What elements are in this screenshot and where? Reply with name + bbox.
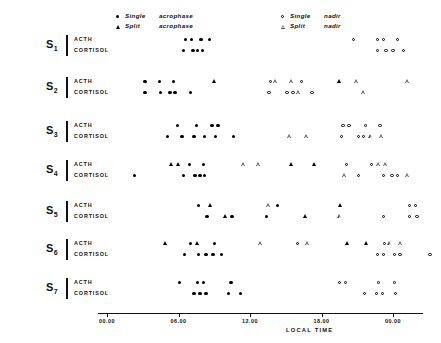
data-point-filled-circle: [158, 80, 161, 83]
data-point-filled-circle: [189, 91, 192, 94]
data-point-filled-triangle: [289, 162, 293, 166]
data-point-filled-circle: [230, 215, 233, 218]
data-point-open-circle: [338, 281, 341, 284]
data-point-filled-triangle: [337, 79, 341, 83]
data-point-open-circle: [377, 281, 380, 284]
data-point-filled-circle: [172, 80, 175, 83]
axis-title: LOCAL TIME: [286, 327, 333, 333]
data-point-filled-circle: [213, 242, 216, 245]
data-point-open-triangle: [355, 79, 359, 83]
data-row-s2-acth: [0, 76, 441, 87]
data-point-open-circle: [383, 242, 386, 245]
data-point-open-circle: [376, 253, 379, 256]
data-point-filled-circle: [191, 49, 194, 52]
data-point-open-triangle: [274, 79, 278, 83]
data-point-open-circle: [340, 135, 343, 138]
data-point-open-triangle: [406, 79, 410, 83]
data-point-open-triangle: [258, 241, 262, 245]
filled-circle-icon: [116, 12, 125, 20]
data-point-filled-circle: [178, 281, 181, 284]
data-point-open-circle: [393, 281, 396, 284]
data-point-filled-circle: [216, 124, 219, 127]
axis-tick: [107, 313, 108, 317]
data-point-open-circle: [267, 91, 270, 94]
legend-type: nadir: [324, 22, 341, 30]
data-point-open-triangle: [369, 134, 373, 138]
data-point-open-circle: [341, 124, 344, 127]
data-point-open-circle: [378, 124, 381, 127]
data-point-open-circle: [391, 49, 394, 52]
data-point-filled-circle: [143, 91, 146, 94]
axis-tick-label: 18.00: [314, 318, 330, 324]
data-point-open-triangle: [343, 173, 347, 177]
data-point-open-circle: [414, 204, 417, 207]
data-point-open-circle: [408, 215, 411, 218]
data-row-s4-acth: [0, 159, 441, 170]
legend-kind: Split: [290, 22, 324, 30]
legend-type: acrophase: [159, 22, 193, 30]
data-point-filled-circle: [265, 215, 268, 218]
legend-kind: Split: [125, 22, 159, 30]
data-point-filled-triangle: [195, 241, 199, 245]
data-point-filled-triangle: [208, 203, 212, 207]
data-point-filled-circle: [192, 135, 195, 138]
data-point-filled-circle: [197, 253, 200, 256]
data-point-filled-triangle: [176, 162, 180, 166]
data-point-filled-circle: [203, 135, 206, 138]
data-point-open-triangle: [289, 79, 293, 83]
data-point-open-triangle: [257, 162, 261, 166]
data-point-open-circle: [376, 49, 379, 52]
subject-block-s7: S7ACTHCORTISOL: [0, 273, 441, 303]
data-point-open-circle: [396, 38, 399, 41]
data-point-filled-circle: [168, 91, 171, 94]
data-point-filled-circle: [195, 124, 198, 127]
chart-legend: SingleacrophaseSplitacrophaseSinglenadir…: [0, 0, 441, 34]
data-point-open-circle: [398, 253, 401, 256]
data-point-filled-circle: [176, 124, 179, 127]
data-point-filled-triangle: [169, 162, 173, 166]
data-point-open-triangle: [306, 241, 310, 245]
data-point-filled-circle: [182, 174, 185, 177]
data-point-open-circle: [296, 242, 299, 245]
axis-tick-label: 12.00: [242, 318, 258, 324]
legend-kind: Single: [125, 12, 159, 20]
data-point-filled-circle: [204, 292, 207, 295]
data-point-filled-circle: [204, 253, 207, 256]
data-point-open-triangle: [305, 134, 309, 138]
data-point-open-triangle: [362, 90, 366, 94]
data-point-open-triangle: [288, 134, 292, 138]
axis-tick-label: 00.00: [385, 318, 401, 324]
data-point-open-triangle: [338, 214, 342, 218]
data-point-filled-triangle: [338, 203, 342, 207]
data-point-filled-circle: [214, 135, 217, 138]
filled-circle-glyph: [116, 15, 119, 18]
data-point-open-circle: [402, 49, 405, 52]
x-axis: 00.0006.0012.0018.0000.00 LOCAL TIME: [0, 311, 441, 343]
data-point-filled-circle: [198, 174, 201, 177]
open-circle-glyph: [281, 15, 284, 18]
data-row-s7-acth: [0, 277, 441, 288]
data-point-filled-circle: [184, 38, 187, 41]
data-point-filled-circle: [205, 215, 208, 218]
data-point-open-circle: [382, 38, 385, 41]
data-point-open-circle: [357, 174, 360, 177]
data-point-open-circle: [364, 124, 367, 127]
data-row-s6-cortisol: [0, 249, 441, 260]
data-point-filled-circle: [173, 91, 176, 94]
axis-tick: [250, 313, 251, 317]
data-point-filled-circle: [208, 38, 211, 41]
subject-block-s1: S1ACTHCORTISOL: [0, 30, 441, 60]
legend-entry-open-circle: Singlenadir: [281, 12, 341, 20]
legend-type: nadir: [324, 12, 341, 20]
data-row-s1-cortisol: [0, 45, 441, 56]
data-point-open-circle: [291, 91, 294, 94]
data-point-filled-circle: [197, 204, 200, 207]
data-point-open-triangle: [399, 241, 403, 245]
data-point-open-circle: [394, 292, 397, 295]
data-row-s5-cortisol: [0, 211, 441, 222]
data-point-open-circle: [344, 281, 347, 284]
data-point-filled-triangle: [212, 79, 216, 83]
data-point-filled-circle: [143, 80, 146, 83]
open-circle-icon: [281, 12, 290, 20]
axis-tick: [322, 313, 323, 317]
